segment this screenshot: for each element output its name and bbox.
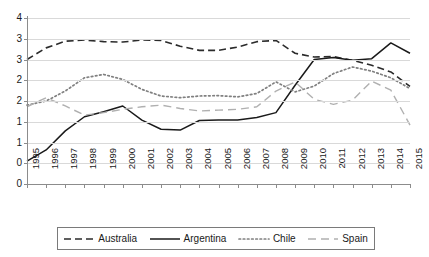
- x-axis-tick-label: 2001: [146, 148, 156, 188]
- x-axis-tick-mark: [391, 185, 392, 188]
- x-axis-tick-mark: [333, 185, 334, 188]
- x-axis-tick-label: 2004: [203, 148, 213, 188]
- x-axis-tick-mark: [84, 185, 85, 188]
- y-axis-tick-label: 0: [2, 179, 22, 189]
- x-axis-tick-label: 2012: [357, 148, 367, 188]
- x-axis-tick-label: 1995: [31, 148, 41, 188]
- x-axis-tick-label: 2006: [242, 148, 252, 188]
- line-chart: 433221100 199519961997199819992000200120…: [0, 0, 429, 257]
- x-axis-tick-label: 2014: [395, 148, 405, 188]
- y-axis-tick-label: 2: [2, 96, 22, 106]
- x-axis-tick-label: 2013: [376, 148, 386, 188]
- x-axis-tick-label: 2000: [127, 148, 137, 188]
- x-axis-tick-label: 2007: [261, 148, 271, 188]
- x-axis-tick-mark: [104, 185, 105, 188]
- x-axis-tick-mark: [142, 185, 143, 188]
- x-axis-tick-label: 2010: [318, 148, 328, 188]
- legend-swatch-chile: [239, 235, 269, 243]
- x-axis-tick-label: 2003: [184, 148, 194, 188]
- y-axis-tick-label: 1: [2, 138, 22, 148]
- x-axis-tick-label: 2011: [337, 148, 347, 188]
- y-axis-tick-label: 2: [2, 75, 22, 85]
- y-axis-tick-mark: [24, 39, 27, 40]
- legend-label: Australia: [98, 234, 137, 244]
- x-axis-tick-label: 2015: [414, 148, 424, 188]
- x-axis-tick-mark: [199, 185, 200, 188]
- y-axis-tick-mark: [24, 60, 27, 61]
- x-axis-tick-mark: [123, 185, 124, 188]
- x-axis-tick-mark: [257, 185, 258, 188]
- y-axis-tick-label: 0: [2, 158, 22, 168]
- y-axis-tick-label: 4: [2, 13, 22, 23]
- x-axis-tick-mark: [353, 185, 354, 188]
- x-axis-tick-label: 2002: [165, 148, 175, 188]
- x-axis-tick-label: 2005: [223, 148, 233, 188]
- legend-item-spain[interactable]: Spain: [308, 234, 368, 244]
- x-axis-tick-label: 2008: [280, 148, 290, 188]
- legend-label: Argentina: [184, 234, 227, 244]
- x-axis-tick-mark: [46, 185, 47, 188]
- x-axis-tick-mark: [161, 185, 162, 188]
- x-axis-tick-mark: [314, 185, 315, 188]
- legend-swatch-spain: [308, 235, 338, 243]
- chart-legend: AustraliaArgentinaChileSpain: [57, 227, 375, 250]
- x-axis-tick-mark: [219, 185, 220, 188]
- legend-label: Chile: [273, 234, 296, 244]
- legend-item-australia[interactable]: Australia: [64, 234, 137, 244]
- y-axis-tick-label: 1: [2, 117, 22, 127]
- legend-label: Spain: [342, 234, 368, 244]
- y-axis-tick-mark: [24, 143, 27, 144]
- y-axis-tick-mark: [24, 101, 27, 102]
- legend-item-argentina[interactable]: Argentina: [150, 234, 227, 244]
- x-axis-tick-label: 2009: [299, 148, 309, 188]
- x-axis-tick-mark: [276, 185, 277, 188]
- x-axis-tick-label: 1996: [50, 148, 60, 188]
- y-axis-tick-mark: [24, 18, 27, 19]
- y-axis-tick-labels: 433221100: [0, 0, 429, 257]
- x-axis-tick-mark: [238, 185, 239, 188]
- x-axis-tick-label: 1998: [88, 148, 98, 188]
- x-axis-tick-mark: [27, 185, 28, 188]
- x-axis-tick-mark: [295, 185, 296, 188]
- y-axis-tick-mark: [24, 80, 27, 81]
- legend-swatch-argentina: [150, 235, 180, 243]
- x-axis-tick-mark: [65, 185, 66, 188]
- x-axis-tick-mark: [372, 185, 373, 188]
- x-axis-tick-mark: [410, 185, 411, 188]
- x-axis-tick-mark: [180, 185, 181, 188]
- legend-item-chile[interactable]: Chile: [239, 234, 296, 244]
- x-axis-tick-label: 1997: [69, 148, 79, 188]
- y-axis-tick-label: 3: [2, 34, 22, 44]
- x-axis-tick-label: 1999: [108, 148, 118, 188]
- legend-swatch-australia: [64, 235, 94, 243]
- y-axis-tick-label: 3: [2, 55, 22, 65]
- y-axis-tick-mark: [24, 163, 27, 164]
- y-axis-tick-mark: [24, 122, 27, 123]
